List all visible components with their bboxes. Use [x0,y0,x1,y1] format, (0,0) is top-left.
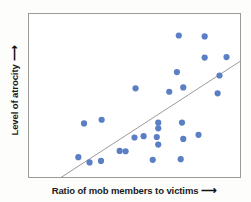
data-point [155,125,161,131]
data-point [150,157,156,163]
data-point [179,119,185,125]
data-point [122,148,128,154]
data-point [155,120,161,126]
data-point [141,133,147,139]
data-point [99,117,105,123]
data-point [155,141,161,147]
data-point [202,55,208,61]
scatter-plot-figure: Level of atrocity ⟶ Ratio of mob members… [0,0,251,202]
data-point [174,69,180,75]
x-axis-label: Ratio of mob members to victims ⟶ [52,185,218,196]
data-point [166,89,172,95]
data-point [202,33,208,39]
data-point [180,84,186,90]
data-point [223,54,229,60]
data-point [81,120,87,126]
data-point [132,85,138,91]
data-point [98,158,104,164]
x-axis-label-container: Ratio of mob members to victims ⟶ [28,180,241,200]
data-point [131,134,137,140]
data-point [75,154,81,160]
data-point [176,32,182,38]
data-point [117,148,123,154]
plot-canvas [0,0,251,202]
data-point [154,134,160,140]
data-point [178,156,184,162]
data-point [216,72,222,78]
data-point [180,136,186,142]
plot-frame [29,14,241,178]
x-axis-label-text: Ratio of mob members to victims [52,185,199,196]
data-point [215,90,221,96]
data-point [195,132,201,138]
data-point [86,159,92,165]
x-axis-arrow-icon: ⟶ [201,185,217,196]
